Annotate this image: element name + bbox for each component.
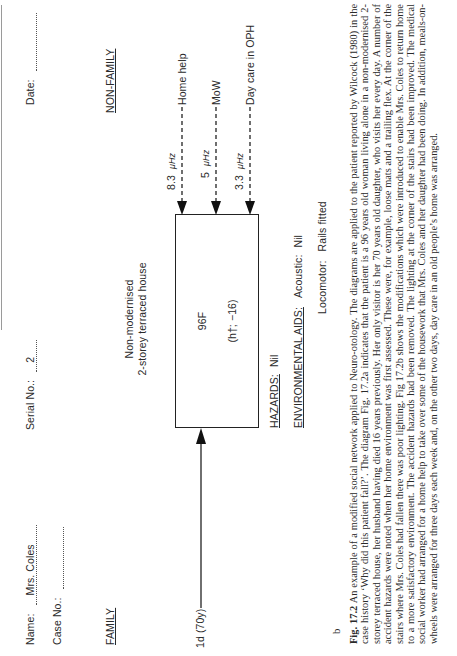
rotated-page: Name: Mrs. Coles Case No.: Serial No.: 2… [0, 0, 457, 656]
locomotor-row: Locomotor: Rails fitted [316, 201, 328, 314]
service-value-mow: 5 μHz [199, 150, 211, 178]
env-aids-row: ENVIRONMENTAL AIDS: Acoustic: Nil [292, 235, 304, 428]
locomotor-value: Rails fitted [316, 201, 328, 251]
service-label-day-care: Day care in OPH [244, 25, 256, 105]
service-value-day-care: 3.3 μHz [233, 153, 245, 190]
figure-caption: Fig. 17.2 An example of a modified socia… [348, 4, 439, 644]
hazards-value: Nil [268, 355, 280, 368]
figure-caption-text: An example of a modified social network … [348, 4, 439, 644]
figure-label: Fig. 17.2 [348, 606, 359, 644]
acoustic-label: Acoustic: [292, 255, 304, 299]
service-arrow-mow [211, 107, 221, 215]
service-arrow-day-care [245, 107, 255, 215]
service-value-home-help: 8.3 μHz [165, 153, 177, 190]
locomotor-label: Locomotor: [316, 260, 328, 314]
hazards-row: HAZARDS: Nil [268, 355, 280, 428]
service-arrow-home-help [177, 107, 187, 215]
hazards-label: HAZARDS: [268, 374, 280, 428]
family-link-arrow [196, 428, 206, 608]
service-label-home-help: Home help [176, 53, 188, 105]
env-aids-label: ENVIRONMENTAL AIDS: [292, 307, 304, 428]
acoustic-value: Nil [292, 235, 304, 248]
service-label-mow: MoW [210, 80, 222, 105]
family-link-label: 1d (70y) [194, 609, 206, 648]
panel-label: b [330, 629, 342, 635]
